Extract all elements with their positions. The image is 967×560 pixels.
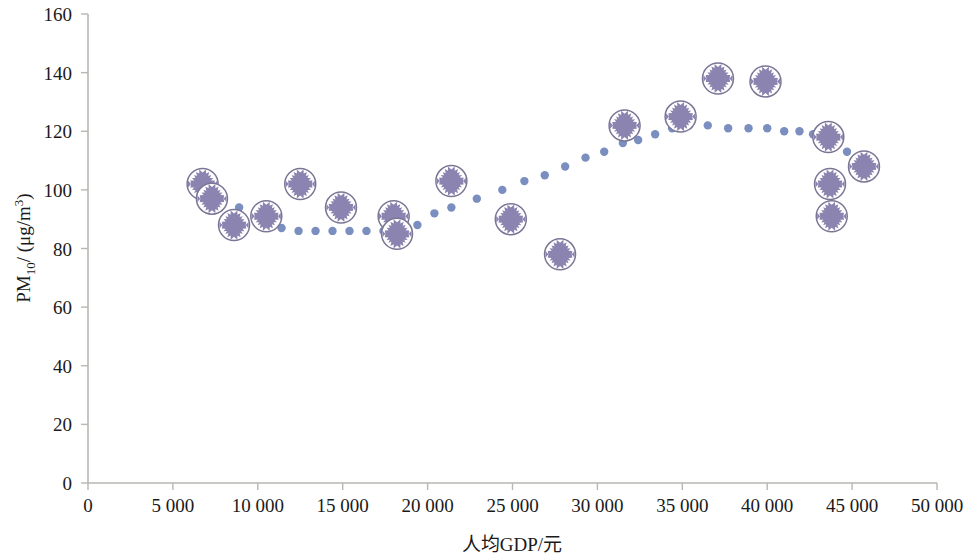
x-tick-label: 35 000 bbox=[656, 495, 708, 516]
y-axis-tick-marks bbox=[81, 14, 88, 483]
trend-dot bbox=[780, 127, 788, 135]
trend-dot bbox=[561, 162, 569, 170]
trend-dot bbox=[581, 153, 589, 161]
trend-dot bbox=[328, 227, 336, 235]
x-tick-label: 15 000 bbox=[317, 495, 369, 516]
scatter-marker bbox=[382, 218, 413, 249]
y-axis-title-main: PM bbox=[13, 275, 34, 303]
scatter-marker bbox=[285, 169, 316, 200]
trend-dot bbox=[473, 194, 481, 202]
trend-dot bbox=[362, 227, 370, 235]
y-tick-label: 0 bbox=[63, 473, 73, 494]
y-tick-label: 120 bbox=[44, 121, 73, 142]
x-tick-label: 25 000 bbox=[486, 495, 538, 516]
scatter-marker bbox=[665, 101, 696, 132]
trend-dot bbox=[600, 148, 608, 156]
y-tick-label: 100 bbox=[44, 180, 73, 201]
x-tick-label: 45 000 bbox=[826, 495, 878, 516]
y-tick-label: 20 bbox=[53, 414, 72, 435]
y-tick-label: 80 bbox=[53, 239, 72, 260]
x-axis-title: 人均GDP/元 bbox=[462, 534, 562, 555]
trend-dot bbox=[345, 227, 353, 235]
trend-dot bbox=[498, 186, 506, 194]
scatter-marker bbox=[495, 204, 526, 235]
x-tick-label: 30 000 bbox=[571, 495, 623, 516]
trend-dot bbox=[311, 227, 319, 235]
x-tick-label: 40 000 bbox=[741, 495, 793, 516]
trend-dot bbox=[430, 209, 438, 217]
y-tick-label: 140 bbox=[44, 63, 73, 84]
scatter-marker bbox=[813, 122, 844, 153]
x-axis-tick-labels: 05 00010 00015 00020 00025 00030 00035 0… bbox=[83, 495, 963, 516]
axis-lines bbox=[88, 14, 937, 483]
scatter-marker bbox=[219, 210, 250, 241]
y-axis-title-subscript: 10 bbox=[23, 262, 38, 275]
trend-dot bbox=[744, 124, 752, 132]
y-tick-label: 40 bbox=[53, 356, 72, 377]
trend-dot bbox=[413, 221, 421, 229]
scatter-marker bbox=[436, 166, 467, 197]
trend-dot bbox=[724, 124, 732, 132]
scatter-marker bbox=[326, 192, 357, 223]
chart-axes bbox=[81, 14, 937, 490]
trend-dot bbox=[704, 121, 712, 129]
scatter-points bbox=[187, 63, 879, 270]
y-axis-title: PM10/ (μg/m3) bbox=[11, 193, 38, 302]
x-axis-tick-marks bbox=[88, 483, 937, 490]
chart-canvas: 020406080100120140160 05 00010 00015 000… bbox=[0, 0, 967, 560]
trend-dot bbox=[541, 171, 549, 179]
y-axis-title-unit: / (μg/m bbox=[13, 206, 35, 262]
svg-text:PM10/ (μg/m3): PM10/ (μg/m3) bbox=[11, 193, 38, 302]
trend-dot bbox=[447, 203, 455, 211]
y-axis-tick-labels: 020406080100120140160 bbox=[44, 4, 73, 494]
scatter-marker bbox=[196, 183, 227, 214]
x-tick-label: 10 000 bbox=[232, 495, 284, 516]
y-tick-label: 60 bbox=[53, 297, 72, 318]
trend-dot bbox=[651, 130, 659, 138]
scatter-marker bbox=[609, 110, 640, 141]
trend-dot bbox=[795, 127, 803, 135]
scatter-marker bbox=[750, 66, 781, 97]
x-tick-label: 5 000 bbox=[152, 495, 195, 516]
scatter-marker bbox=[815, 169, 846, 200]
trend-dot bbox=[520, 177, 528, 185]
trend-dot bbox=[843, 148, 851, 156]
scatter-marker bbox=[251, 201, 282, 232]
trend-line-dots bbox=[235, 121, 851, 235]
x-tick-label: 50 000 bbox=[911, 495, 963, 516]
scatter-marker bbox=[848, 151, 879, 182]
x-tick-label: 20 000 bbox=[401, 495, 453, 516]
scatter-marker bbox=[545, 239, 576, 270]
scatter-marker bbox=[702, 63, 733, 94]
chart-figure: 020406080100120140160 05 00010 00015 000… bbox=[0, 0, 967, 560]
trend-dot bbox=[763, 124, 771, 132]
x-tick-label: 0 bbox=[83, 495, 93, 516]
y-tick-label: 160 bbox=[44, 4, 73, 25]
trend-dot bbox=[294, 227, 302, 235]
y-axis-title-unit-close: ) bbox=[13, 193, 35, 199]
scatter-marker bbox=[816, 201, 847, 232]
